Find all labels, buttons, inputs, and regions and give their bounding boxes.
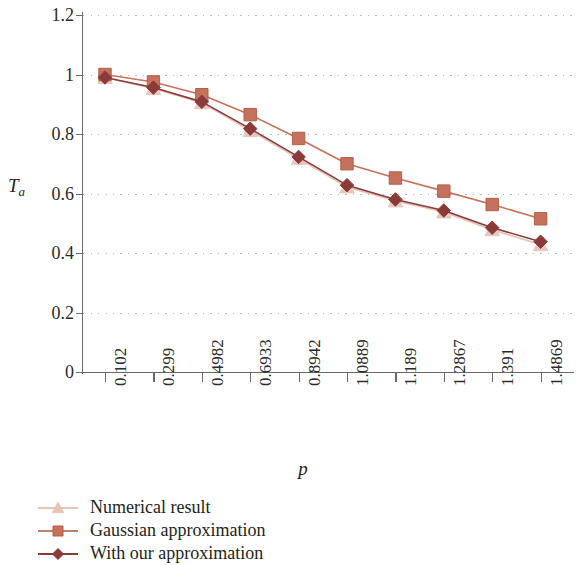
data-point-marker — [437, 204, 451, 218]
data-point-marker — [147, 81, 161, 95]
series-line — [105, 75, 541, 219]
x-tick-mark — [395, 373, 396, 382]
gridline — [83, 75, 573, 76]
x-tick-label: 0.102 — [111, 348, 131, 386]
y-tick-mark — [76, 253, 83, 254]
y-tick-mark — [76, 15, 83, 16]
y-tick-mark — [76, 313, 83, 314]
legend-item[interactable]: Numerical result — [36, 496, 366, 519]
data-point-marker — [340, 180, 355, 193]
legend-item[interactable]: With our approximation — [36, 542, 366, 565]
series-line — [105, 77, 541, 241]
x-axis-label: p — [0, 458, 578, 480]
y-tick-label: 0.2 — [28, 304, 74, 322]
data-point-marker — [388, 194, 403, 207]
y-tick-mark — [76, 134, 83, 135]
data-point-marker — [244, 108, 256, 120]
y-tick-label-group: 1.210.80.60.40.20 — [28, 0, 74, 400]
y-tick-mark — [76, 372, 83, 373]
legend-swatch — [36, 521, 80, 541]
y-axis-label: Ta — [8, 175, 25, 200]
x-tick-mark — [202, 373, 203, 382]
data-point-marker — [486, 198, 498, 210]
x-tick-label: 0.6933 — [256, 339, 276, 386]
x-tick-label: 1.4869 — [547, 339, 567, 386]
series-square — [99, 68, 547, 225]
x-tick-mark — [153, 373, 154, 382]
x-tick-mark — [105, 373, 106, 382]
gridline — [83, 253, 573, 254]
gridline — [83, 134, 573, 135]
legend-label: With our approximation — [90, 543, 263, 564]
series-diamond — [98, 71, 547, 249]
x-tick-label: 1.391 — [498, 348, 518, 386]
x-tick-label: 1.189 — [401, 348, 421, 386]
legend-swatch — [36, 544, 80, 564]
data-point-marker — [389, 172, 401, 184]
data-point-marker — [340, 178, 354, 192]
y-tick-label: 0.8 — [28, 125, 74, 143]
data-point-marker — [485, 223, 500, 236]
data-point-marker — [196, 89, 208, 101]
data-point-marker — [341, 158, 353, 170]
data-point-marker — [291, 151, 306, 164]
x-tick-label: 0.4982 — [208, 339, 228, 386]
x-tick-mark — [444, 373, 445, 382]
data-point-marker — [485, 221, 499, 235]
data-point-marker — [438, 185, 450, 197]
data-point-marker — [292, 150, 306, 164]
y-axis-label-sub: a — [19, 184, 26, 199]
gridline — [83, 194, 573, 195]
y-tick-label: 0 — [28, 363, 74, 381]
y-tick-mark — [76, 194, 83, 195]
gridline — [83, 313, 573, 314]
legend-item[interactable]: Gaussian approximation — [36, 519, 366, 542]
legend-label: Gaussian approximation — [90, 520, 265, 541]
y-tick-mark — [76, 75, 83, 76]
x-tick-mark — [347, 373, 348, 382]
legend-label: Numerical result — [90, 497, 210, 518]
data-point-marker — [437, 205, 452, 218]
x-tick-label: 1.0889 — [353, 339, 373, 386]
square-marker — [51, 524, 65, 538]
diamond-marker — [51, 547, 65, 561]
data-point-marker — [195, 95, 209, 109]
y-tick-label: 1 — [28, 66, 74, 84]
x-tick-label: 1.2867 — [450, 339, 470, 386]
data-point-marker — [146, 81, 161, 94]
gridline — [83, 15, 573, 16]
data-point-marker — [98, 70, 113, 83]
y-tick-label: 1.2 — [28, 6, 74, 24]
x-tick-mark — [250, 373, 251, 382]
data-point-marker — [533, 237, 548, 250]
y-tick-label: 0.6 — [28, 185, 74, 203]
legend-swatch — [36, 498, 80, 518]
x-tick-mark — [299, 373, 300, 382]
series-line — [105, 77, 541, 244]
x-tick-mark — [492, 373, 493, 382]
y-tick-label: 0.4 — [28, 244, 74, 262]
data-point-marker — [98, 71, 112, 85]
data-point-marker — [534, 235, 548, 249]
x-tick-mark — [541, 373, 542, 382]
data-point-marker — [147, 76, 159, 88]
data-point-marker — [389, 193, 403, 207]
x-tick-label: 0.299 — [159, 348, 179, 386]
data-point-marker — [534, 213, 546, 225]
data-point-marker — [195, 95, 210, 108]
chart-legend: Numerical resultGaussian approximationWi… — [36, 496, 366, 565]
triangle-marker — [51, 501, 65, 515]
y-axis-label-main: T — [8, 175, 19, 196]
x-tick-label: 0.8942 — [305, 339, 325, 386]
series-triangle — [98, 70, 548, 250]
